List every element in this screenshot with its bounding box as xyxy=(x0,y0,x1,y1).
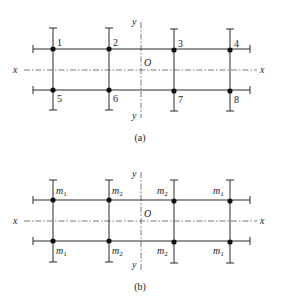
mass-label-top-3: m2 xyxy=(157,185,168,198)
bolt-node-8 xyxy=(227,88,232,93)
node-label-2: 2 xyxy=(113,37,118,48)
x-axis-label-right-a: x xyxy=(259,64,265,75)
bolt-node-3 xyxy=(171,47,176,52)
caption-a: (a) xyxy=(134,132,145,144)
x-axis-label-right-b: x xyxy=(259,215,265,226)
y-axis-label-top-a: y xyxy=(131,16,137,27)
node-label-6: 6 xyxy=(113,93,118,104)
y-axis-label-bottom-a: y xyxy=(131,110,137,121)
mass-node-bottom-4 xyxy=(227,239,232,244)
x-axis-label-left-a: x xyxy=(12,64,18,75)
mass-node-top-3 xyxy=(171,198,176,203)
panel-a: 1 2 3 4 5 6 7 8 y y x x O (a) xyxy=(12,16,265,144)
mass-label-bottom-2: m2 xyxy=(112,245,123,258)
bolt-node-7 xyxy=(171,88,176,93)
mass-node-bottom-1 xyxy=(50,238,55,243)
column-2-a xyxy=(105,28,113,110)
mass-label-top-2: m2 xyxy=(112,185,123,198)
bolt-node-4 xyxy=(227,47,232,52)
node-label-4: 4 xyxy=(234,38,239,49)
mass-node-top-2 xyxy=(106,197,111,202)
origin-label-b: O xyxy=(144,208,151,219)
mass-label-top-4: m1 xyxy=(213,185,224,198)
panel-b: m1 m2 m2 m1 m1 m2 m2 m1 y y x x O (b) xyxy=(12,168,265,293)
mass-node-top-1 xyxy=(50,197,55,202)
bolt-group-diagram: 1 2 3 4 5 6 7 8 y y x x O (a) xyxy=(0,0,285,307)
node-label-3: 3 xyxy=(178,38,183,49)
node-label-1: 1 xyxy=(57,37,62,48)
mass-label-bottom-3: m2 xyxy=(157,245,168,258)
caption-b: (b) xyxy=(134,281,146,293)
mass-label-bottom-4: m1 xyxy=(213,245,224,258)
mass-node-top-4 xyxy=(227,198,232,203)
node-label-5: 5 xyxy=(57,93,62,104)
mass-node-bottom-3 xyxy=(171,239,176,244)
y-axis-label-bottom-b: y xyxy=(131,259,137,270)
y-axis-label-top-b: y xyxy=(131,168,137,179)
mass-label-bottom-1: m1 xyxy=(56,245,67,258)
bolt-node-6 xyxy=(106,87,111,92)
x-axis-label-left-b: x xyxy=(12,215,18,226)
column-3-b xyxy=(170,180,178,263)
bolt-node-2 xyxy=(106,46,111,51)
column-4-b xyxy=(226,180,234,263)
node-label-8: 8 xyxy=(234,94,239,105)
bolt-node-5 xyxy=(50,87,55,92)
node-label-7: 7 xyxy=(178,94,183,105)
mass-label-top-1: m1 xyxy=(56,185,67,198)
column-1-a xyxy=(49,28,57,110)
bolt-node-1 xyxy=(50,46,55,51)
mass-node-bottom-2 xyxy=(106,238,111,243)
origin-label-a: O xyxy=(144,57,151,68)
